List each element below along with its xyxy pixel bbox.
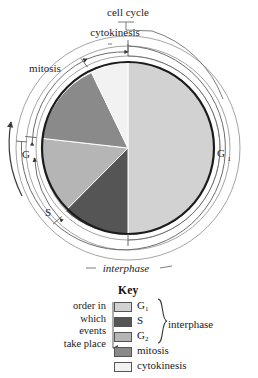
order-of-events-text: order in which events take place (30, 300, 106, 350)
key-panel: Key order in which events take place G1 … (0, 284, 258, 378)
swatch-s (114, 317, 132, 327)
label-g1-sub: 1 (227, 155, 230, 162)
label-mitosis: mitosis (29, 62, 61, 74)
key-label-mitosis: mitosis (137, 345, 169, 358)
key-heading: Key (118, 284, 138, 296)
key-label-g1: G1 (137, 300, 148, 313)
swatch-mitosis (114, 347, 132, 357)
order-line-4: take place (30, 338, 106, 351)
key-label-cytokinesis: cytokinesis (137, 360, 187, 373)
swatch-cytokinesis (114, 362, 132, 372)
label-interphase: interphase (103, 262, 150, 274)
key-entry-list: G1 S G2 mitosis cytokinesis (114, 299, 187, 374)
key-entry-cytokinesis: cytokinesis (114, 359, 187, 374)
cycle-direction-arrow (9, 122, 22, 196)
interphase-tick-end (16, 141, 27, 142)
key-group-label-interphase: interphase (168, 318, 213, 330)
pie-slice-g1 (128, 62, 214, 234)
swatch-g1 (114, 302, 132, 312)
key-label-s: S (137, 315, 143, 328)
direction-arrow-path (9, 122, 22, 196)
leader-interphase-right (160, 266, 172, 268)
order-line-3: events (30, 325, 106, 338)
key-entry-mitosis: mitosis (114, 344, 187, 359)
order-line-1: order in (30, 300, 106, 313)
label-s: S (45, 206, 51, 218)
label-g2: G 2 (22, 148, 36, 163)
label-cytokinesis: cytokinesis (90, 26, 140, 38)
label-g2-sub: 2 (32, 156, 35, 163)
key-entry-g2: G2 (114, 329, 187, 344)
label-g2-letter: G (22, 148, 30, 160)
label-cell-cycle: cell cycle (107, 6, 149, 18)
order-line-2: which (30, 313, 106, 326)
pie-sectors (41, 62, 214, 234)
swatch-g2 (114, 332, 132, 342)
tick-s-g2 (53, 216, 62, 224)
key-label-g2: G2 (137, 330, 148, 343)
key-entry-g1: G1 (114, 299, 187, 314)
label-g1-letter: G (217, 147, 225, 159)
